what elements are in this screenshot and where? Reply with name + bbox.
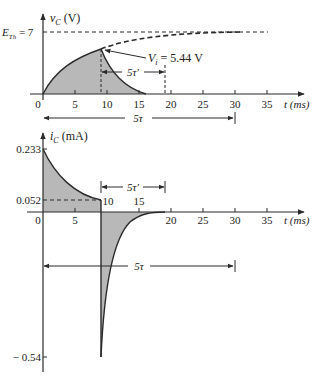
x-tick-label: 0 <box>35 214 41 226</box>
charging-current-shaded-area <box>43 149 101 212</box>
x-tick-label: 15 <box>134 98 146 110</box>
x-tick-label: 15 <box>134 195 146 207</box>
x-tick-label: 5 <box>72 98 78 110</box>
x-tick-label: 35 <box>262 214 274 226</box>
charging-continuation-curve <box>101 32 240 49</box>
y-axis-label: vC (V) <box>50 11 80 27</box>
x-tick-label: 25 <box>198 98 210 110</box>
y-mid-label: 0.052 <box>16 194 41 206</box>
x-tick-label: 10 <box>103 195 115 207</box>
vi-pointer-line <box>105 50 146 58</box>
y-max-label: 0.233 <box>16 143 41 155</box>
rc-charging-discharging-diagram: 0 5 10 15 20 25 30 35 t (ms) vC (V) ETh … <box>0 0 314 386</box>
x-tick-label: 30 <box>230 98 242 110</box>
x-tick-label: 20 <box>166 98 178 110</box>
x-tick-label: 25 <box>198 214 210 226</box>
discharging-current-shaded-area <box>101 212 165 357</box>
x-tick-label: 35 <box>262 98 274 110</box>
x-tick-label: 10 <box>102 98 114 110</box>
five-tau-prime-label: 5τ′ <box>127 66 139 78</box>
y-axis-label: iC (mA) <box>50 129 88 145</box>
five-tau-label: 5τ <box>134 260 145 272</box>
x-axis-label: t (ms) <box>284 214 310 227</box>
x-tick-label: 5 <box>72 214 78 226</box>
voltage-chart: 0 5 10 15 20 25 30 35 t (ms) vC (V) ETh … <box>1 11 310 124</box>
y-min-label: − 0.54 <box>13 351 42 363</box>
x-tick-label: 20 <box>166 214 178 226</box>
eth-label: ETh = 7 <box>1 26 34 41</box>
five-tau-prime-label: 5τ′ <box>127 181 139 193</box>
charging-shaded-area <box>43 49 101 94</box>
x-tick-label: 0 <box>35 98 41 110</box>
current-chart: 0.233 0.052 − 0.54 0 5 10 15 20 25 30 35… <box>13 129 310 372</box>
five-tau-label: 5τ <box>133 112 144 124</box>
x-axis-label: t (ms) <box>284 98 310 111</box>
x-tick-label: 30 <box>230 214 242 226</box>
vi-label: Vi = 5.44 V <box>148 51 203 67</box>
